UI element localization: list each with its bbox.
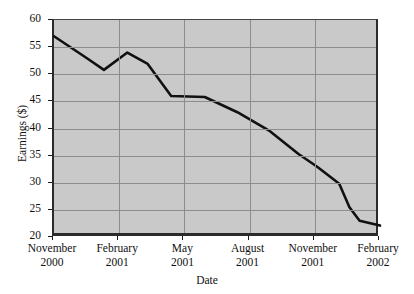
y-tick-label: 50 [1, 67, 41, 79]
gridline-horizontal [54, 156, 376, 157]
x-tick-mark [52, 236, 53, 240]
y-tick-mark [48, 19, 52, 20]
y-tick-label: 20 [1, 230, 41, 242]
x-tick-label-year: 2002 [333, 256, 414, 270]
gridline-horizontal [54, 183, 376, 184]
earnings-line-chart: Earnings ($) Date 202530354045505560Nove… [0, 0, 414, 294]
x-axis-title: Date [0, 274, 414, 286]
gridline-horizontal [54, 101, 376, 102]
x-tick-mark [117, 236, 118, 240]
y-tick-mark [48, 46, 52, 47]
gridline-horizontal [54, 74, 376, 75]
gridline-horizontal [54, 210, 376, 211]
x-tick-label-month: February [333, 242, 414, 256]
y-tick-mark [48, 100, 52, 101]
y-tick-label: 30 [1, 176, 41, 188]
plot-area [52, 19, 378, 236]
x-tick-label: February2002 [333, 242, 414, 269]
y-tick-mark [48, 209, 52, 210]
x-tick-mark [378, 236, 379, 240]
y-tick-label: 25 [1, 203, 41, 215]
gridline-vertical [119, 20, 120, 233]
y-tick-mark [48, 73, 52, 74]
y-tick-label: 60 [1, 13, 41, 25]
y-tick-label: 55 [1, 40, 41, 52]
y-tick-mark [48, 182, 52, 183]
gridline-horizontal [54, 129, 376, 130]
gridline-vertical [315, 20, 316, 233]
y-tick-label: 35 [1, 149, 41, 161]
x-tick-mark [182, 236, 183, 240]
x-tick-mark [248, 236, 249, 240]
y-tick-label: 40 [1, 122, 41, 134]
y-tick-label: 45 [1, 94, 41, 106]
gridline-vertical [184, 20, 185, 233]
y-tick-mark [48, 155, 52, 156]
gridline-vertical [250, 20, 251, 233]
y-tick-mark [48, 128, 52, 129]
gridline-horizontal [54, 47, 376, 48]
x-tick-mark [313, 236, 314, 240]
